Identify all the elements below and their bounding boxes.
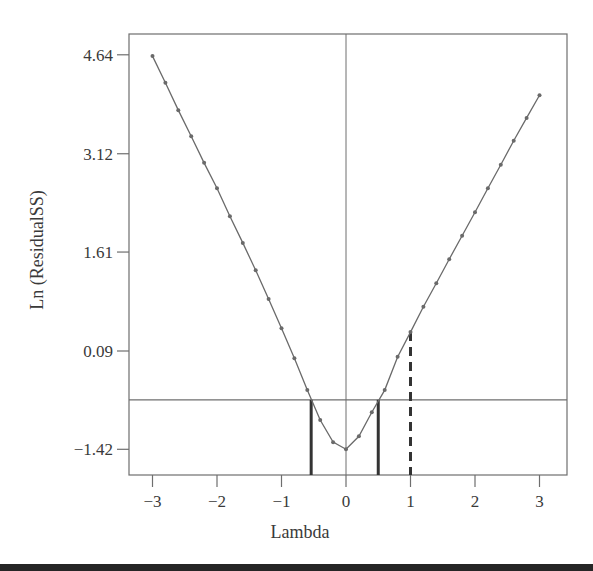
x-tick-label: −2 <box>208 492 226 511</box>
x-tick-label: 1 <box>406 492 415 511</box>
y-axis: 4.643.121.610.09−1.42 <box>74 46 129 460</box>
data-point-marker <box>525 116 529 120</box>
data-point-marker <box>318 418 322 422</box>
data-point-marker <box>228 214 232 218</box>
x-tick-label: 3 <box>535 492 544 511</box>
plot-frame <box>129 34 567 475</box>
box-cox-lambda-chart: 4.643.121.610.09−1.42 −3−2−10123 Lambda … <box>0 0 593 571</box>
data-point-marker <box>305 388 309 392</box>
y-axis-title: Ln (ResidualSS) <box>27 190 48 310</box>
data-point-marker <box>447 257 451 261</box>
data-point-marker <box>357 434 361 438</box>
x-tick-label: −1 <box>272 492 290 511</box>
data-point-marker <box>344 447 348 451</box>
data-point-marker <box>241 241 245 245</box>
data-point-marker <box>292 356 296 360</box>
data-point-marker <box>499 163 503 167</box>
data-point-marker <box>512 139 516 143</box>
data-point-marker <box>473 210 477 214</box>
data-point-marker <box>151 54 155 58</box>
data-point-marker <box>163 81 167 85</box>
data-point-marker <box>396 355 400 359</box>
data-point-marker <box>409 330 413 334</box>
x-axis: −3−2−10123 <box>143 475 543 511</box>
data-point-marker <box>434 281 438 285</box>
data-point-marker <box>421 305 425 309</box>
y-tick-label: 3.12 <box>83 145 113 164</box>
data-point-marker <box>267 297 271 301</box>
data-point-marker <box>370 410 374 414</box>
y-tick-label: 4.64 <box>83 46 113 65</box>
data-point-marker <box>280 326 284 330</box>
y-tick-label: −1.42 <box>74 440 113 459</box>
data-point-marker <box>460 234 464 238</box>
data-point-marker <box>254 268 258 272</box>
reference-lines <box>129 34 567 475</box>
data-point-marker <box>215 186 219 190</box>
y-tick-label: 1.61 <box>83 243 113 262</box>
data-point-marker <box>383 388 387 392</box>
x-axis-title: Lambda <box>271 522 330 542</box>
bottom-border-bar <box>0 564 593 571</box>
data-point-marker <box>189 134 193 138</box>
plot-border <box>129 34 567 475</box>
y-tick-label: 0.09 <box>83 342 113 361</box>
data-point-marker <box>202 161 206 165</box>
x-tick-label: −3 <box>143 492 161 511</box>
data-point-marker <box>331 440 335 444</box>
data-point-marker <box>538 93 542 97</box>
data-point-marker <box>176 108 180 112</box>
x-tick-label: 2 <box>471 492 480 511</box>
x-tick-label: 0 <box>342 492 351 511</box>
data-point-marker <box>486 186 490 190</box>
